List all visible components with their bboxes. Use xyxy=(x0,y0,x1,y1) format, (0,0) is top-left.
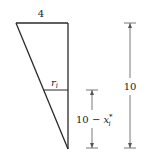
arrow-up-icon xyxy=(90,90,94,95)
radius-label-sub: i xyxy=(56,82,58,90)
triangle-hypotenuse xyxy=(16,23,68,149)
partial-height-prefix: 10 − xyxy=(76,114,103,125)
height-label: 10 xyxy=(124,81,137,92)
radius-label: ri xyxy=(51,77,58,90)
top-width-label: 4 xyxy=(38,8,44,19)
arrow-down-icon xyxy=(90,143,94,148)
partial-height-label: 10 − x*i xyxy=(76,113,113,128)
arrow-down-icon xyxy=(128,143,132,148)
triangle-diagram: 4 ri 10 10 − x*i xyxy=(0,0,147,157)
partial-height-sub: i xyxy=(109,120,111,128)
arrow-up-icon xyxy=(128,23,132,28)
